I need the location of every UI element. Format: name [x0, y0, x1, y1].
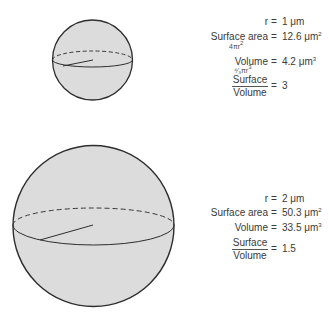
- surface-area-formula: 4πr2: [229, 43, 243, 51]
- volume-number: 33.5 μm: [282, 222, 318, 233]
- ratio-denominator: Volume: [232, 250, 268, 262]
- equals-sign: =: [271, 31, 277, 43]
- equals-sign: =: [271, 207, 277, 219]
- spheres-illustration: [0, 0, 329, 321]
- equals-sign: =: [271, 16, 277, 28]
- equals-sign: =: [271, 222, 277, 234]
- radius-label: r: [265, 193, 268, 205]
- large-sphere: [13, 146, 174, 307]
- ratio-value: 1.5: [282, 243, 296, 255]
- volume-value: 33.5 μm3: [282, 222, 322, 234]
- large-sphere-outline: [13, 146, 174, 307]
- equals-sign: =: [271, 243, 277, 255]
- unit-exponent: 2: [318, 31, 321, 37]
- equals-sign: =: [271, 193, 277, 205]
- ratio-numerator: Surface: [232, 237, 268, 250]
- ratio-value: 3: [282, 80, 288, 92]
- unit-exponent: 2: [318, 207, 321, 213]
- ratio-numerator: Surface: [232, 74, 268, 87]
- formula-exponent: 2: [240, 40, 243, 46]
- surface-area-number: 12.6 μm: [282, 31, 318, 42]
- formula-text: ⁴⁄₃πr: [234, 67, 248, 74]
- formula-text: 4πr: [229, 43, 240, 50]
- radius-value: 2 μm: [282, 193, 304, 205]
- unit-exponent: 3: [318, 222, 321, 228]
- unit-exponent: 3: [313, 56, 316, 62]
- surface-volume-ratio: Surface Volume: [232, 74, 268, 99]
- volume-number: 4.2 μm: [282, 56, 313, 67]
- radius-value: 1 μm: [282, 16, 304, 28]
- equals-sign: =: [271, 56, 277, 68]
- surface-area-value: 12.6 μm2: [282, 31, 322, 43]
- small-sphere: [53, 20, 133, 100]
- formula-exponent: 3: [248, 64, 251, 70]
- equals-sign: =: [271, 80, 277, 92]
- surface-area-label: Surface area: [211, 207, 268, 219]
- volume-value: 4.2 μm3: [282, 56, 316, 68]
- ratio-denominator: Volume: [232, 87, 268, 99]
- volume-label: Volume: [235, 222, 268, 234]
- radius-label: r: [265, 16, 268, 28]
- surface-volume-ratio: Surface Volume: [232, 237, 268, 262]
- surface-area-value: 50.3 μm2: [282, 207, 322, 219]
- surface-area-number: 50.3 μm: [282, 207, 318, 218]
